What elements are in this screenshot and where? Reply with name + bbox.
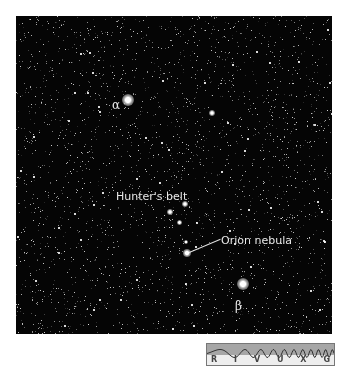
wavelength-strip: R I V U X G [206, 343, 335, 366]
hunters-belt-label: Hunter's belt [116, 190, 187, 203]
alpha-label: α [112, 98, 120, 112]
belt-star [177, 220, 182, 225]
band-u: U [277, 355, 284, 365]
belt-star [167, 209, 173, 215]
star [209, 110, 215, 116]
star-background [16, 16, 332, 334]
beta-star [237, 278, 249, 290]
band-r: R [211, 355, 217, 365]
band-i: I [234, 355, 237, 365]
belt-star [182, 201, 188, 207]
band-v: V [254, 355, 260, 365]
band-g: G [323, 355, 330, 365]
orion-nebula [183, 249, 191, 257]
star-field-photo: α Hunter's belt Orion nebula β [16, 16, 332, 334]
beta-label: β [235, 299, 242, 313]
band-labels: R I V U X G [207, 355, 334, 365]
orion-nebula-label: Orion nebula [221, 234, 292, 247]
wavelength-wave [207, 344, 334, 355]
alpha-star [122, 94, 134, 106]
band-x: X [300, 355, 306, 365]
star [184, 240, 188, 244]
